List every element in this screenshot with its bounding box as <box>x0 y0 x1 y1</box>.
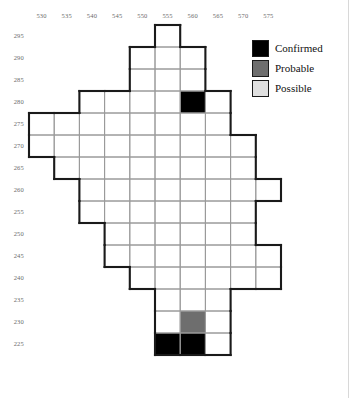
grid-cell-530-275 <box>29 113 54 135</box>
legend-swatch-probable <box>252 60 269 77</box>
legend-swatch-possible <box>252 80 269 97</box>
grid-cell-540-270 <box>79 135 104 157</box>
grid-cell-545-245 <box>105 245 130 267</box>
grid-cell-550-275 <box>130 113 155 135</box>
grid-cell-555-265 <box>155 157 180 179</box>
grid-cell-555-255 <box>155 201 180 223</box>
grid-cell-565-275 <box>205 113 230 135</box>
grid-cell-540-265 <box>79 157 104 179</box>
grid-cell-555-270 <box>155 135 180 157</box>
grid-cell-555-290 <box>155 47 180 69</box>
grid-cell-540-275 <box>79 113 104 135</box>
legend-label: Possible <box>275 80 312 97</box>
grid-cell-560-230 <box>180 311 205 333</box>
grid-cell-560-240 <box>180 267 205 289</box>
legend-item-confirmed: Confirmed <box>252 40 323 57</box>
grid-cell-550-260 <box>130 179 155 201</box>
grid-cell-545-275 <box>105 113 130 135</box>
grid-cell-555-260 <box>155 179 180 201</box>
grid-cell-555-285 <box>155 69 180 91</box>
grid-cell-555-240 <box>155 267 180 289</box>
legend-label: Confirmed <box>275 40 323 57</box>
grid-cell-570-240 <box>231 267 256 289</box>
grid-cell-565-230 <box>205 311 230 333</box>
heatmap-figure: 530535540545550555560565570575 295290285… <box>0 0 349 398</box>
grid-cell-550-255 <box>130 201 155 223</box>
legend: ConfirmedProbablePossible <box>252 40 323 97</box>
grid-cell-570-260 <box>231 179 256 201</box>
grid-cell-575-240 <box>256 267 281 289</box>
grid-cell-560-275 <box>180 113 205 135</box>
grid-cell-565-240 <box>205 267 230 289</box>
grid-cell-550-270 <box>130 135 155 157</box>
legend-label: Probable <box>275 60 314 77</box>
grid-cell-560-225 <box>180 333 205 355</box>
grid-cell-545-255 <box>105 201 130 223</box>
legend-swatch-confirmed <box>252 40 269 57</box>
grid-cell-560-235 <box>180 289 205 311</box>
grid-cell-550-250 <box>130 223 155 245</box>
grid-cell-545-265 <box>105 157 130 179</box>
grid-cell-535-275 <box>54 113 79 135</box>
grid-cell-565-245 <box>205 245 230 267</box>
grid-cell-565-260 <box>205 179 230 201</box>
grid-cell-550-265 <box>130 157 155 179</box>
grid-cell-530-270 <box>29 135 54 157</box>
grid-cell-550-240 <box>130 267 155 289</box>
grid-cell-550-285 <box>130 69 155 91</box>
grid-cell-550-245 <box>130 245 155 267</box>
grid-cell-565-255 <box>205 201 230 223</box>
grid-cell-560-290 <box>180 47 205 69</box>
grid-cell-550-280 <box>130 91 155 113</box>
grid-cell-560-285 <box>180 69 205 91</box>
grid-cell-535-270 <box>54 135 79 157</box>
grid-cell-540-260 <box>79 179 104 201</box>
legend-item-possible: Possible <box>252 80 323 97</box>
grid-cell-565-235 <box>205 289 230 311</box>
grid-cell-560-270 <box>180 135 205 157</box>
grid-cell-540-280 <box>79 91 104 113</box>
grid-cell-575-245 <box>256 245 281 267</box>
grid-cell-560-245 <box>180 245 205 267</box>
grid-cell-545-270 <box>105 135 130 157</box>
grid-cell-545-250 <box>105 223 130 245</box>
grid-cell-575-260 <box>256 179 281 201</box>
grid-cell-560-280 <box>180 91 205 113</box>
grid-cell-565-270 <box>205 135 230 157</box>
grid-cell-560-260 <box>180 179 205 201</box>
legend-item-probable: Probable <box>252 60 323 77</box>
grid-cell-555-225 <box>155 333 180 355</box>
grid-cell-560-255 <box>180 201 205 223</box>
grid-cell-570-270 <box>231 135 256 157</box>
grid-cell-540-255 <box>79 201 104 223</box>
grid-cell-555-235 <box>155 289 180 311</box>
grid-cell-560-265 <box>180 157 205 179</box>
grid-cell-545-260 <box>105 179 130 201</box>
grid-cell-570-245 <box>231 245 256 267</box>
grid-cell-550-290 <box>130 47 155 69</box>
grid-cell-570-265 <box>231 157 256 179</box>
grid-cell-565-250 <box>205 223 230 245</box>
grid-cell-565-280 <box>205 91 230 113</box>
grid-cell-555-230 <box>155 311 180 333</box>
grid-cell-545-280 <box>105 91 130 113</box>
grid-cell-555-295 <box>155 25 180 47</box>
grid-cell-555-250 <box>155 223 180 245</box>
grid-cell-535-265 <box>54 157 79 179</box>
grid-cell-555-280 <box>155 91 180 113</box>
grid-cell-570-255 <box>231 201 256 223</box>
grid-cell-565-265 <box>205 157 230 179</box>
grid-cell-555-245 <box>155 245 180 267</box>
grid-cell-560-250 <box>180 223 205 245</box>
grid-cell-570-250 <box>231 223 256 245</box>
grid-cell-555-275 <box>155 113 180 135</box>
grid-cell-565-225 <box>205 333 230 355</box>
